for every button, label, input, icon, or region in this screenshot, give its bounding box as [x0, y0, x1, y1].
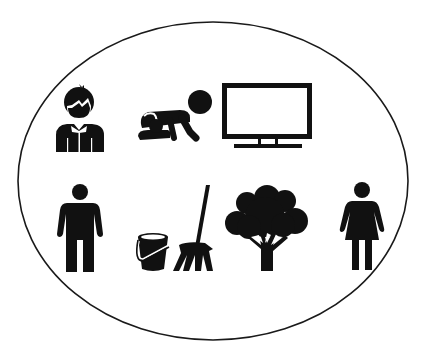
- man-icon: [57, 184, 103, 274]
- bucket-mop-icon: [135, 183, 215, 275]
- boy-icon: [52, 80, 108, 152]
- television-icon: [221, 82, 313, 150]
- tree-icon: [225, 185, 309, 271]
- woman-icon: [339, 182, 385, 272]
- crawling-baby-icon: [134, 88, 214, 144]
- diagram: [0, 0, 424, 362]
- ellipse-container: [0, 0, 424, 362]
